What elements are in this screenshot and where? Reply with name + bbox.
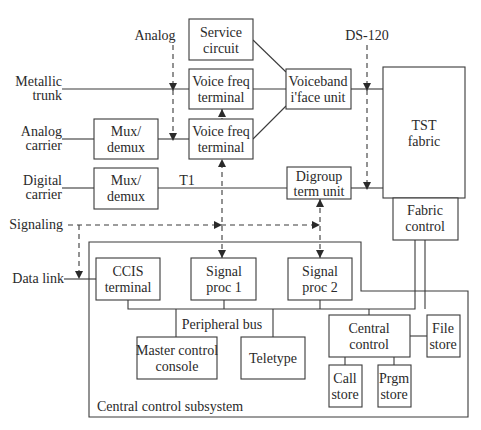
vft2-label-1: Voice freq	[192, 124, 250, 139]
analog-carrier-label-2: carrier	[25, 138, 62, 153]
peripheral-bus-line	[128, 229, 415, 309]
mux1-label-1: Mux/	[111, 124, 141, 139]
data-link-label: Data link	[12, 271, 64, 286]
call-store-label-2: store	[331, 387, 358, 402]
arrow-up-icon	[218, 159, 226, 167]
arrow-down-icon	[75, 271, 83, 279]
voiceband-label-1: Voiceband	[289, 74, 348, 89]
central-control-subsystem-label: Central control subsystem	[97, 399, 243, 414]
cc-label-1: Central	[348, 321, 389, 336]
arrow-down-icon	[169, 133, 177, 141]
sp2-label-1: Signal	[302, 264, 338, 279]
teletype-label: Teletype	[249, 351, 297, 366]
vft2-label-2: terminal	[198, 140, 245, 155]
tst-label-1: TST	[412, 118, 437, 133]
mcc-label-1: Master control	[136, 343, 218, 358]
digital-carrier-label-1: Digital	[23, 173, 62, 188]
ccis-label-2: terminal	[105, 280, 152, 295]
vft1-label-2: terminal	[198, 90, 245, 105]
prgm-store-label-2: store	[380, 387, 407, 402]
mux1-label-2: demux	[107, 140, 145, 155]
arrow-up-icon	[218, 109, 226, 117]
metallic-trunk-label-1: Metallic	[15, 74, 62, 89]
service-circuit-label-2: circuit	[203, 41, 239, 56]
fabric-control-label-2: control	[405, 219, 445, 234]
voiceband-label-2: i'face unit	[291, 90, 346, 105]
arrow-right-icon	[214, 221, 222, 229]
service-to-voiceband-line	[253, 40, 286, 72]
fabric-control-label-1: Fabric	[407, 203, 443, 218]
digroup-label-1: Digroup	[296, 169, 343, 184]
mcc-label-2: console	[156, 359, 199, 374]
mux2-label-2: demux	[107, 189, 145, 204]
analog-label: Analog	[134, 28, 175, 43]
service-circuit-label-1: Service	[200, 25, 242, 40]
arrow-down-icon	[363, 83, 371, 91]
arrow-down-icon	[363, 182, 371, 190]
sp1-label-1: Signal	[206, 264, 242, 279]
peripheral-bus-label: Peripheral bus	[182, 317, 262, 332]
vft2-to-voiceband-line	[253, 106, 286, 139]
prgm-store-label-1: Prgm	[379, 371, 409, 386]
switching-system-diagram: Service circuit Voice freq terminal Voic…	[0, 0, 481, 430]
t1-label: T1	[179, 173, 195, 188]
digital-carrier-label-2: carrier	[25, 187, 62, 202]
vft1-label-1: Voice freq	[192, 74, 250, 89]
signaling-label: Signaling	[9, 217, 63, 232]
arrow-down-icon	[316, 250, 324, 258]
analog-carrier-label-1: Analog	[21, 124, 62, 139]
ccis-label-1: CCIS	[112, 264, 143, 279]
sp2-label-2: proc 2	[302, 280, 337, 295]
ds120-label: DS-120	[345, 28, 389, 43]
digroup-label-2: term unit	[294, 184, 345, 199]
arrow-up-icon	[316, 199, 324, 207]
metallic-trunk-label-2: trunk	[32, 88, 62, 103]
cc-label-2: control	[349, 337, 389, 352]
file-store-label-1: File	[432, 321, 454, 336]
file-store-label-2: store	[429, 337, 456, 352]
call-store-label-1: Call	[333, 371, 356, 386]
tst-label-2: fabric	[408, 134, 441, 149]
arrow-right-icon	[312, 221, 320, 229]
sp1-label-2: proc 1	[206, 280, 241, 295]
mux2-label-1: Mux/	[111, 173, 141, 188]
arrow-down-icon	[169, 83, 177, 91]
arrow-down-icon	[218, 250, 226, 258]
